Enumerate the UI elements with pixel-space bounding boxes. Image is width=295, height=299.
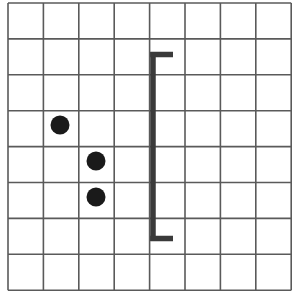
figure-canvas [0,0,295,299]
figure-svg [0,0,295,299]
bracket-bottom-arm [150,236,173,242]
dot-2 [87,152,106,171]
bracket-stem [150,52,156,241]
bracket-top-arm [150,52,173,58]
dot-1 [51,116,70,135]
dot-3 [87,188,106,207]
